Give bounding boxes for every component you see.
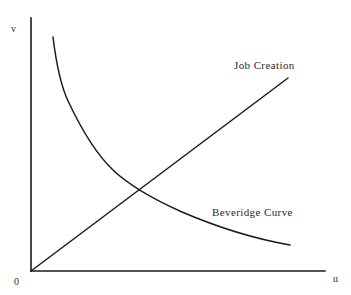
- y-axis-label: v: [11, 23, 16, 34]
- chart-canvas: v u 0 Job Creation Beveridge Curve: [0, 0, 351, 295]
- axes-group: [31, 18, 325, 271]
- beveridge-curve-label: Beveridge Curve: [212, 206, 293, 218]
- x-axis-label: u: [333, 273, 338, 284]
- beveridge-curve-figure: v u 0 Job Creation Beveridge Curve: [0, 0, 351, 295]
- origin-label: 0: [14, 276, 19, 287]
- job-creation-label: Job Creation: [234, 59, 295, 71]
- job-creation-line: [31, 78, 288, 271]
